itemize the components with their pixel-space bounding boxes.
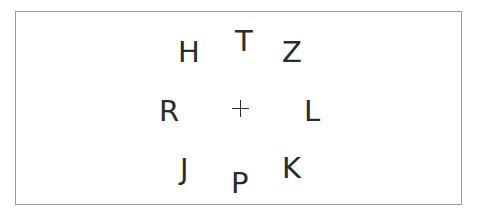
chart-stage: H T Z R L J P K	[0, 0, 479, 216]
letter-t: T	[235, 27, 253, 56]
letter-j: J	[180, 155, 189, 184]
letter-k: K	[282, 154, 301, 183]
letter-p: P	[231, 169, 249, 198]
plus-fixation-cross-icon	[232, 100, 249, 117]
cross-bar-vertical	[240, 100, 241, 117]
letter-h: H	[178, 38, 200, 67]
letter-z: Z	[282, 38, 302, 67]
letter-l: L	[304, 97, 320, 126]
letter-r: R	[159, 97, 179, 126]
chart-frame: H T Z R L J P K	[15, 11, 462, 205]
